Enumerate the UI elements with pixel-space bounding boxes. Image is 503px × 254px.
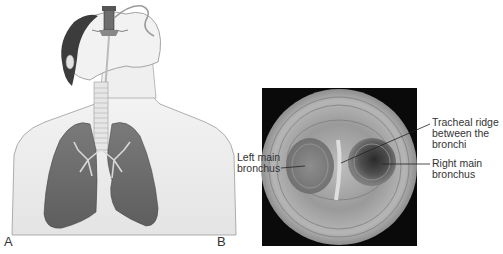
label-tracheal-ridge: Tracheal ridge between the bronchi — [432, 117, 499, 150]
panel-letter-a: A — [4, 234, 13, 249]
label-line: bronchus — [237, 163, 280, 174]
patient-illustration — [12, 6, 236, 235]
label-line: bronchi — [432, 139, 499, 150]
bronchoscope-view — [261, 88, 430, 246]
left-bronchus-opening — [286, 138, 334, 194]
trachea — [94, 82, 108, 150]
tube-connector — [104, 8, 114, 30]
panel-letter-b: B — [217, 234, 226, 249]
label-right-main-bronchus: Right main bronchus — [432, 158, 482, 180]
tube-cap — [102, 6, 116, 11]
label-left-main-bronchus: Left main bronchus — [237, 152, 280, 174]
tube-flange — [99, 30, 119, 36]
ear — [66, 55, 74, 69]
label-line: bronchus — [432, 169, 482, 180]
right-bronchus-opening — [348, 138, 396, 186]
figure-canvas: A B — [0, 0, 503, 254]
